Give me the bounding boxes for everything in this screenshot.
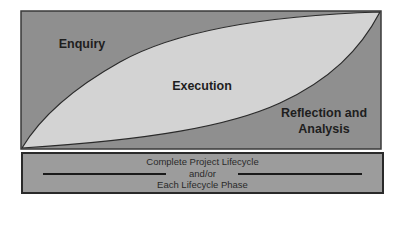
reflection-label-line1: Reflection and bbox=[274, 105, 374, 121]
scope-line-1: Complete Project Lifecycle bbox=[23, 156, 382, 167]
execution-label: Execution bbox=[162, 78, 242, 94]
right-rule bbox=[238, 173, 362, 175]
lifecycle-scope-box: Complete Project Lifecycle and/or Each L… bbox=[21, 152, 384, 194]
left-rule bbox=[43, 173, 166, 175]
reflection-label-line2: Analysis bbox=[274, 121, 374, 137]
scope-line-3: Each Lifecycle Phase bbox=[23, 179, 382, 190]
enquiry-label: Enquiry bbox=[52, 36, 112, 52]
